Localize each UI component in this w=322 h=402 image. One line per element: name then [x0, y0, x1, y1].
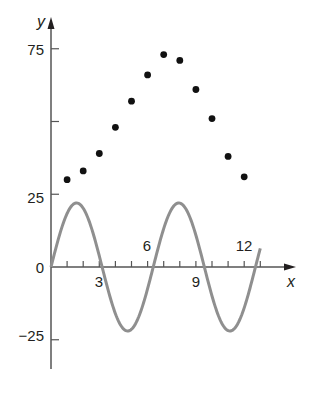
data-point	[241, 173, 248, 180]
y-axis-arrow-icon	[48, 17, 55, 29]
data-point	[96, 150, 103, 157]
chart: y x 75 25 0 −25 3 6 9 12	[0, 0, 322, 402]
y-tick-label-0: 0	[36, 259, 44, 276]
y-axis-label: y	[36, 13, 46, 30]
y-tick-label-neg25: −25	[19, 327, 44, 344]
x-tick-label-9: 9	[192, 273, 200, 290]
data-point	[144, 72, 151, 79]
data-point	[209, 115, 216, 122]
y-axis	[48, 17, 55, 369]
data-point	[160, 51, 167, 58]
data-point	[176, 57, 183, 64]
data-point	[128, 98, 135, 105]
data-point	[225, 153, 232, 160]
data-point	[64, 176, 71, 183]
data-point	[80, 168, 87, 175]
data-point	[112, 124, 119, 131]
x-tick-label-6: 6	[143, 237, 151, 254]
x-axis	[51, 264, 296, 271]
x-tick-label-3: 3	[95, 273, 103, 290]
x-axis-label: x	[286, 273, 296, 290]
x-axis-arrow-icon	[284, 264, 296, 271]
y-tick-label-75: 75	[27, 41, 44, 58]
y-ticks	[51, 49, 59, 340]
data-point	[193, 86, 200, 93]
data-points	[64, 51, 248, 183]
x-ticks	[67, 261, 260, 267]
x-tick-label-12: 12	[236, 237, 253, 254]
y-tick-label-25: 25	[27, 189, 44, 206]
